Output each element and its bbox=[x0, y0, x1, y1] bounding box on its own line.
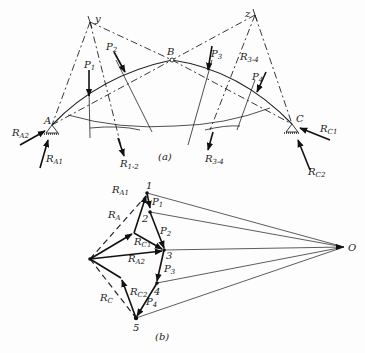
ray-2 bbox=[150, 212, 344, 247]
resultant-r34-arrow bbox=[208, 132, 213, 150]
node-5-label: 5 bbox=[133, 322, 139, 333]
label-y: y bbox=[94, 13, 101, 24]
label-R34-upper: R3-4 bbox=[239, 51, 259, 64]
node-2-label: 2 bbox=[141, 213, 148, 224]
ray-4 bbox=[157, 247, 344, 283]
label-RA2: RA2 bbox=[11, 127, 30, 140]
three-hinged-arch-diagram: y z A B C P1 P2 P3 P4 R3-4 R1-2 R3-4 RA2… bbox=[0, 0, 365, 353]
label-P3: P3 bbox=[210, 48, 223, 61]
pole-O-label: O bbox=[348, 242, 356, 253]
caption-a: (a) bbox=[158, 151, 172, 162]
caption-b: (b) bbox=[155, 331, 169, 342]
hinge-B bbox=[170, 58, 174, 62]
label-P4: P4 bbox=[251, 71, 263, 84]
label-A: A bbox=[43, 115, 51, 126]
diagram-canvas: y z A B C P1 P2 P3 P4 R3-4 R1-2 R3-4 RA2… bbox=[0, 0, 365, 353]
chord-B-C bbox=[172, 60, 292, 124]
label-b-RA: RA bbox=[107, 209, 121, 222]
load-p2-arrow bbox=[114, 52, 125, 72]
label-b-RC2: RC2 bbox=[129, 286, 148, 299]
label-b-P3: P3 bbox=[163, 263, 176, 276]
vector-P1 bbox=[147, 193, 150, 208]
load-line-p4 bbox=[237, 80, 255, 130]
label-R34-lower: R3-4 bbox=[204, 153, 224, 166]
vector-RC-inner bbox=[90, 259, 121, 278]
pole-O-marker bbox=[336, 244, 344, 250]
label-b-RA2: RA2 bbox=[127, 253, 146, 266]
label-P2: P2 bbox=[105, 41, 118, 54]
node-3-label: 3 bbox=[166, 250, 172, 261]
label-RC2: RC2 bbox=[307, 166, 326, 179]
part-b-force-polygon: 1 2 3 4 5 O P1 P2 P3 P4 RA1 RA RC1 RA2 R… bbox=[88, 180, 356, 342]
label-b-RA1: RA1 bbox=[111, 184, 129, 197]
label-b-RC: RC bbox=[99, 292, 114, 305]
part-a-funicular: y z A B C P1 P2 P3 P4 R3-4 R1-2 R3-4 RA2… bbox=[11, 8, 337, 179]
funicular-right bbox=[175, 108, 270, 126]
support-A bbox=[44, 125, 60, 134]
ray-1 bbox=[147, 193, 344, 247]
line-A-y bbox=[52, 22, 90, 125]
label-b-P1: P1 bbox=[151, 196, 163, 209]
support-C bbox=[284, 124, 300, 133]
funicular-left-2 bbox=[90, 127, 140, 130]
load-line-p1 bbox=[89, 90, 90, 138]
node-1-label: 1 bbox=[146, 180, 152, 191]
label-B: B bbox=[166, 46, 174, 57]
label-b-P2: P2 bbox=[159, 225, 172, 238]
vector-RA bbox=[90, 196, 146, 259]
label-R12: R1-2 bbox=[119, 158, 139, 171]
label-C: C bbox=[296, 113, 304, 124]
resultant-r12-arrow bbox=[118, 138, 124, 156]
node-4-label: 4 bbox=[153, 286, 160, 297]
load-line-p3 bbox=[188, 60, 212, 145]
ray-3 bbox=[164, 247, 344, 250]
label-RA1: RA1 bbox=[45, 153, 63, 166]
label-z: z bbox=[244, 8, 251, 19]
vector-P3 bbox=[157, 250, 164, 281]
label-RC1: RC1 bbox=[319, 123, 337, 136]
funicular-left bbox=[68, 115, 175, 127]
line-y-B bbox=[90, 22, 172, 60]
